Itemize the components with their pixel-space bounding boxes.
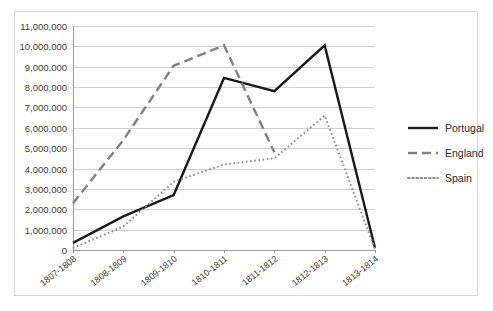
- legend-label-portugal: Portugal: [445, 122, 484, 134]
- x-axis-category-labels: 1807-18081808-18091809-18101810-18111811…: [38, 250, 380, 288]
- y-tick-label: 8,000,000: [25, 82, 67, 93]
- y-tick-label: 9,000,000: [25, 62, 67, 73]
- x-category-label: 1811-1812: [240, 254, 280, 288]
- x-category-label: 1809-1810: [139, 254, 179, 288]
- y-tick-label: 6,000,000: [25, 123, 67, 134]
- x-category-label: 1813-1814: [340, 254, 380, 288]
- y-tick-label: 4,000,000: [25, 164, 67, 175]
- chart-container: 01,000,0002,000,0003,000,0004,000,0005,0…: [0, 0, 493, 311]
- y-tick-label: 0: [62, 245, 67, 256]
- x-category-label: 1808-1809: [88, 254, 128, 288]
- y-tick-label: 3,000,000: [25, 184, 67, 195]
- legend-label-england: England: [445, 147, 484, 159]
- y-tick-label: 5,000,000: [25, 143, 67, 154]
- legend-label-spain: Spain: [445, 172, 472, 184]
- y-tick-label: 2,000,000: [25, 204, 67, 215]
- x-category-label: 1812-1813: [290, 254, 330, 288]
- chart-legend: PortugalEnglandSpain: [408, 122, 484, 184]
- data-series-group: [73, 45, 375, 249]
- x-category-label: 1807-1808: [38, 254, 78, 288]
- y-axis-tick-labels: 01,000,0002,000,0003,000,0004,000,0005,0…: [19, 21, 67, 256]
- gridlines: [73, 27, 375, 251]
- series-line-england: [73, 45, 274, 203]
- y-tick-label: 11,000,000: [20, 21, 67, 32]
- y-tick-label: 1,000,000: [25, 225, 67, 236]
- y-tick-label: 10,000,000: [19, 41, 67, 52]
- y-tick-label: 7,000,000: [25, 102, 67, 113]
- x-category-label: 1810-1811: [190, 254, 230, 288]
- series-line-spain: [73, 116, 375, 249]
- line-chart: 01,000,0002,000,0003,000,0004,000,0005,0…: [0, 0, 493, 311]
